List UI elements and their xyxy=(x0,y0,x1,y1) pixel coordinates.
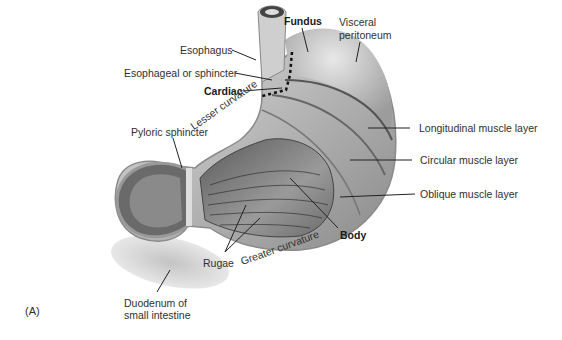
stomach-diagram: Esophagus Esophageal or sphincter Cardia… xyxy=(0,0,562,340)
label-longitudinal-muscle: Longitudinal muscle layer xyxy=(419,122,537,134)
label-duodenum-2: small intestine xyxy=(124,309,191,321)
label-body: Body xyxy=(340,229,366,241)
label-oblique-muscle: Oblique muscle layer xyxy=(420,188,518,200)
label-fundus: Fundus xyxy=(284,15,322,27)
label-duodenum-1: Duodenum of xyxy=(124,297,187,309)
label-esophageal-sphincter: Esophageal or sphincter xyxy=(124,67,237,79)
label-rugae: Rugae xyxy=(203,257,234,269)
leader-lines xyxy=(0,0,562,340)
label-visceral-peritoneum-2: peritoneum xyxy=(339,29,392,41)
label-visceral-peritoneum-1: Visceral xyxy=(339,16,376,28)
panel-label: (A) xyxy=(25,305,40,317)
label-esophagus: Esophagus xyxy=(180,44,233,56)
label-circular-muscle: Circular muscle layer xyxy=(420,154,518,166)
